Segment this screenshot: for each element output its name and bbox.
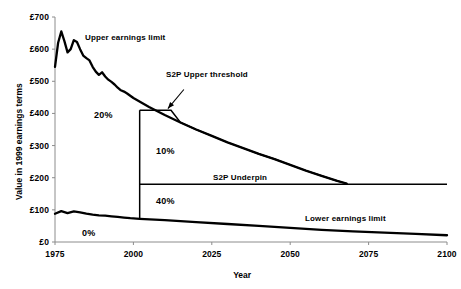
band-label-0-percent: 0% [82, 228, 96, 238]
y-tick-label: £200 [30, 173, 49, 183]
y-tick-label: £300 [30, 141, 49, 151]
x-tick-label: 2050 [276, 249, 304, 259]
y-tick-label: £500 [30, 76, 49, 86]
x-axis-title: Year [233, 270, 251, 280]
x-tick-label: 2100 [433, 249, 461, 259]
series-lower-earnings-limit [55, 211, 447, 235]
band-label-40-percent: 40% [156, 196, 175, 206]
band-label-20-percent: 20% [94, 110, 113, 120]
series-upper-earnings-limit [55, 31, 347, 183]
y-tick-label: £400 [30, 108, 49, 118]
x-tick-label: 2000 [119, 249, 147, 259]
x-tick-label: 2025 [198, 249, 226, 259]
y-tick-label: £100 [30, 205, 49, 215]
band-label-10-percent: 10% [156, 146, 175, 156]
annotation-lower-earnings-limit: Lower earnings limit [305, 214, 386, 223]
y-tick-label: £700 [30, 12, 49, 22]
y-tick-label: £600 [30, 44, 49, 54]
y-axis-title: Value in 1999 earnings terms [14, 83, 24, 200]
annotation-s2p-upper-threshold: S2P Upper threshold [166, 70, 248, 79]
s2p-upper-threshold-arrow [168, 90, 184, 109]
annotation-upper-earnings-limit: Upper earnings limit [85, 33, 165, 42]
annotation-s2p-underpin: S2P Underpin [213, 173, 267, 182]
x-tick-label: 1975 [41, 249, 69, 259]
x-tick-label: 2075 [355, 249, 383, 259]
y-tick-label: £0 [39, 237, 49, 247]
